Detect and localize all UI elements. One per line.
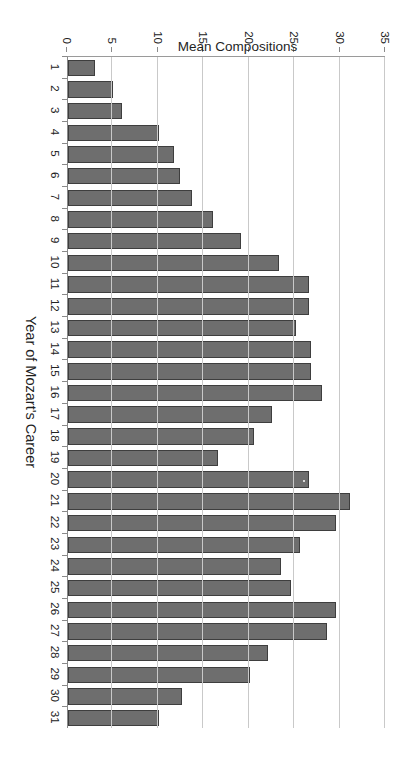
- category-tick-mark: [62, 706, 67, 707]
- bar: [68, 60, 95, 76]
- bar: [68, 298, 309, 314]
- category-tick-mark: [62, 555, 67, 556]
- gridline: [339, 57, 340, 728]
- category-tick-mark: [62, 446, 67, 447]
- bar: [68, 211, 213, 227]
- gridline: [248, 57, 249, 728]
- category-tick-label: 31: [49, 711, 61, 724]
- value-tick-label: 0: [61, 38, 73, 44]
- category-tick-label: 18: [49, 429, 61, 442]
- category-tick-label: 8: [49, 215, 61, 221]
- category-tick-label: 11: [49, 278, 61, 290]
- bar: [68, 580, 291, 596]
- category-tick-label: 22: [49, 516, 61, 529]
- category-tick-mark: [62, 78, 67, 79]
- category-tick-label: 4: [49, 129, 61, 135]
- category-tick-label: 15: [49, 364, 61, 377]
- category-tick-label: 20: [49, 472, 61, 485]
- category-tick-mark: [62, 143, 67, 144]
- category-tick-label: 5: [49, 150, 61, 156]
- bar: [68, 450, 218, 466]
- category-tick-mark: [62, 251, 67, 252]
- category-tick-mark: [62, 663, 67, 664]
- bar: [68, 125, 159, 141]
- category-tick-label: 16: [49, 386, 61, 399]
- category-tick-label: 14: [49, 342, 61, 355]
- category-tick-mark: [62, 164, 67, 165]
- category-tick-mark: [62, 576, 67, 577]
- bar: [68, 168, 180, 184]
- category-tick-mark: [62, 598, 67, 599]
- bar: [68, 276, 309, 292]
- category-tick-label: 1: [49, 64, 61, 70]
- bar: [68, 233, 241, 249]
- bar: [68, 623, 327, 639]
- category-tick-label: 27: [49, 624, 61, 637]
- category-tick-mark: [62, 229, 67, 230]
- bar: [68, 363, 311, 379]
- category-axis-title: Year of Mozart's Career: [23, 56, 39, 728]
- category-tick-label: 3: [49, 107, 61, 113]
- gridline: [202, 57, 203, 728]
- bar: [68, 710, 159, 726]
- category-tick-mark: [62, 468, 67, 469]
- category-tick-mark: [62, 403, 67, 404]
- category-tick-mark: [62, 294, 67, 295]
- bar: [68, 81, 113, 97]
- category-tick-mark: [62, 685, 67, 686]
- plot-area: [67, 56, 385, 728]
- category-tick-mark: [62, 338, 67, 339]
- category-tick-mark: [62, 273, 67, 274]
- category-tick-mark: [62, 359, 67, 360]
- category-tick-label: 26: [49, 602, 61, 615]
- category-tick-mark: [62, 425, 67, 426]
- bar: [68, 537, 300, 553]
- bar: [68, 341, 311, 357]
- bar: [68, 428, 254, 444]
- category-tick-mark: [62, 620, 67, 621]
- category-tick-label: 10: [49, 256, 61, 269]
- value-tick-mark: [66, 47, 67, 52]
- category-tick-label: 13: [49, 321, 61, 334]
- category-tick-mark: [62, 316, 67, 317]
- category-tick-mark: [62, 533, 67, 534]
- bars-layer: [68, 57, 385, 728]
- category-tick-label: 12: [49, 299, 61, 312]
- category-tick-mark: [62, 121, 67, 122]
- category-tick-mark: [62, 56, 67, 57]
- category-tick-label: 23: [49, 537, 61, 550]
- gridline: [157, 57, 158, 728]
- bar: [68, 385, 322, 401]
- bar: [68, 190, 192, 206]
- category-tick-label: 29: [49, 667, 61, 680]
- category-tick-mark: [62, 186, 67, 187]
- bar: [68, 320, 296, 336]
- bar: [68, 493, 350, 509]
- bar: [68, 471, 309, 487]
- rotated-figure-wrapper: 05101520253035 1234567891011121314151617…: [0, 0, 405, 761]
- category-tick-mark: [62, 511, 67, 512]
- category-axis: 1234567891011121314151617181920212223242…: [41, 56, 67, 728]
- bar: [68, 558, 282, 574]
- category-tick-label: 6: [49, 172, 61, 178]
- category-tick-label: 28: [49, 646, 61, 659]
- gridline: [384, 57, 385, 728]
- bar: [68, 146, 174, 162]
- category-tick-label: 9: [49, 237, 61, 243]
- category-tick-label: 24: [49, 559, 61, 572]
- category-tick-mark: [62, 641, 67, 642]
- category-tick-mark: [62, 99, 67, 100]
- bar: [68, 406, 272, 422]
- category-tick-mark: [62, 490, 67, 491]
- value-axis-title: Mean Compositions: [88, 39, 388, 54]
- bar: [68, 645, 268, 661]
- category-tick-label: 30: [49, 689, 61, 702]
- category-tick-mark: [62, 208, 67, 209]
- bar: [68, 103, 123, 119]
- category-tick-label: 7: [49, 194, 61, 200]
- bar-chart-figure: 05101520253035 1234567891011121314151617…: [0, 0, 405, 761]
- bar: [68, 667, 250, 683]
- category-tick-label: 17: [49, 407, 61, 420]
- category-tick-label: 19: [49, 451, 61, 464]
- category-tick-mark: [62, 381, 67, 382]
